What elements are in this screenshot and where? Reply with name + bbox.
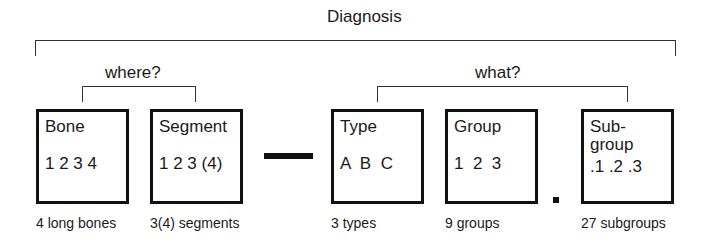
group-title: Group — [454, 118, 501, 136]
what-label: what? — [475, 63, 520, 83]
type-caption: 3 types — [331, 215, 376, 231]
bone-caption: 4 long bones — [36, 215, 116, 231]
subgroup-values: .1 .2 .3 — [590, 157, 642, 177]
subgroup-title-line2: group — [590, 136, 633, 154]
type-title: Type — [340, 118, 377, 136]
type-box: Type A B C — [331, 109, 424, 204]
group-values: 1 2 3 — [454, 154, 501, 174]
subgroup-title: Sub- group — [590, 118, 633, 154]
subgroup-caption: 27 subgroups — [581, 215, 666, 231]
group-caption: 9 groups — [445, 215, 499, 231]
bone-box: Bone 1 2 3 4 — [36, 109, 129, 204]
diagnosis-label: Diagnosis — [327, 7, 402, 27]
where-bracket — [82, 86, 196, 102]
bone-values: 1 2 3 4 — [45, 154, 97, 174]
segment-title: Segment — [159, 118, 227, 136]
segment-values: 1 2 3 (4) — [159, 154, 222, 174]
segment-box: Segment 1 2 3 (4) — [150, 109, 243, 204]
subgroup-box: Sub- group .1 .2 .3 — [581, 109, 674, 204]
what-bracket — [377, 86, 628, 102]
dash-separator — [264, 153, 313, 159]
group-box: Group 1 2 3 — [445, 109, 538, 204]
segment-caption: 3(4) segments — [150, 215, 239, 231]
diagnosis-bracket — [35, 40, 676, 56]
bone-title: Bone — [45, 118, 85, 136]
type-values: A B C — [340, 154, 393, 174]
where-label: where? — [105, 63, 161, 83]
subgroup-title-line1: Sub- — [590, 118, 633, 136]
dot-separator — [553, 197, 559, 203]
